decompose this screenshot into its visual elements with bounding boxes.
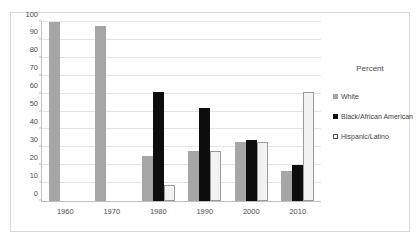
- y-axis-tick-label: 0: [34, 190, 38, 198]
- legend-swatch-icon: [333, 134, 338, 139]
- y-axis-tick-label: 10: [30, 172, 38, 180]
- bar: [49, 22, 60, 201]
- x-axis-tick-label: 1970: [103, 208, 120, 216]
- x-axis-tick-label: 2000: [243, 208, 260, 216]
- bar: [153, 92, 164, 201]
- y-axis-tick-label: 60: [30, 82, 38, 90]
- bar-group: 1990: [182, 22, 229, 201]
- bar-series-layer: 196019701980199020002010: [42, 22, 321, 201]
- legend-item: White: [333, 93, 420, 100]
- y-axis-tick-label: 50: [30, 100, 38, 108]
- legend-title: Percent: [333, 65, 420, 73]
- legend-item-label: Black/African American: [341, 113, 413, 120]
- chart-container: 0102030405060708090100 19601970198019902…: [10, 12, 410, 232]
- bar-group: 1980: [135, 22, 182, 201]
- y-axis-tick-label: 90: [30, 29, 38, 37]
- bar: [281, 171, 292, 201]
- bar: [188, 151, 199, 201]
- y-axis-tick-label: 40: [30, 118, 38, 126]
- x-axis-tick-label: 1980: [150, 208, 167, 216]
- bar: [257, 142, 268, 201]
- legend-item: Black/African American: [333, 113, 420, 120]
- x-axis-tick-label: 1990: [196, 208, 213, 216]
- legend-item: Hispanic/Latino: [333, 133, 420, 140]
- y-axis-tick-label: 80: [30, 47, 38, 55]
- bar-group: 2000: [228, 22, 275, 201]
- legend-item-label: White: [341, 93, 359, 100]
- y-axis-tick-label: 30: [30, 136, 38, 144]
- bar: [142, 156, 153, 201]
- bar: [292, 165, 303, 201]
- x-axis-tick-label: 2010: [289, 208, 306, 216]
- bar: [235, 142, 246, 201]
- y-axis-tick-label: 20: [30, 154, 38, 162]
- y-axis-tick-label: 70: [30, 64, 38, 72]
- bar: [246, 140, 257, 201]
- x-axis-tick-label: 1960: [57, 208, 74, 216]
- chart-legend: Percent WhiteBlack/African AmericanHispa…: [333, 65, 420, 153]
- bar-group: 1960: [42, 22, 89, 201]
- bar: [164, 185, 175, 201]
- y-axis-tick-label: 100: [25, 11, 38, 19]
- legend-items: WhiteBlack/African AmericanHispanic/Lati…: [333, 93, 420, 140]
- bar: [199, 108, 210, 201]
- bar: [95, 26, 106, 201]
- bar: [210, 151, 221, 201]
- legend-swatch-icon: [333, 94, 338, 99]
- plot-area: 0102030405060708090100 19601970198019902…: [41, 22, 321, 202]
- bar-group: 2010: [275, 22, 322, 201]
- legend-item-label: Hispanic/Latino: [341, 133, 389, 140]
- bar-group: 1970: [89, 22, 136, 201]
- legend-swatch-icon: [333, 114, 338, 119]
- bar: [303, 92, 314, 201]
